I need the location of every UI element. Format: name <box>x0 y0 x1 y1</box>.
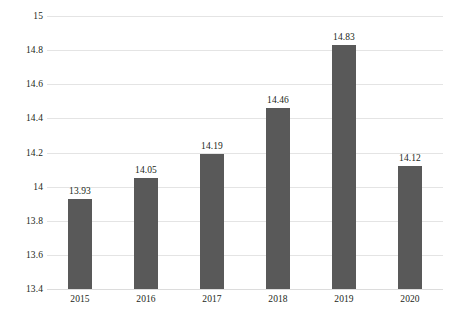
gridline <box>47 255 443 256</box>
x-axis-tick-label: 2019 <box>314 293 374 305</box>
bar[interactable] <box>134 178 158 289</box>
y-axis-tick-label: 13.8 <box>0 216 43 226</box>
bar[interactable] <box>332 45 356 289</box>
bar[interactable] <box>398 166 422 289</box>
bar-value-label: 13.93 <box>50 186 110 197</box>
bar[interactable] <box>68 199 92 289</box>
y-axis-tick-label: 14.8 <box>0 45 43 55</box>
gridline <box>47 118 443 119</box>
bar-chart: 13.413.613.81414.214.414.614.815 13.9314… <box>0 0 453 323</box>
gridline <box>47 221 443 222</box>
gridline <box>47 84 443 85</box>
gridline <box>47 16 443 17</box>
y-axis-tick-label: 14.2 <box>0 148 43 158</box>
y-axis-tick-label: 15 <box>0 11 43 21</box>
y-axis-tick-label: 13.4 <box>0 284 43 294</box>
x-axis-tick-label: 2020 <box>380 293 440 305</box>
x-axis-tick-label: 2015 <box>50 293 110 305</box>
y-axis-tick-label: 14 <box>0 182 43 192</box>
bar-value-label: 14.19 <box>182 141 242 152</box>
y-axis: 13.413.613.81414.214.414.614.815 <box>0 0 43 323</box>
x-axis-tick-label: 2018 <box>248 293 308 305</box>
bar[interactable] <box>266 108 290 289</box>
y-axis-tick-label: 13.6 <box>0 250 43 260</box>
bar-value-label: 14.05 <box>116 165 176 176</box>
y-axis-tick-label: 14.6 <box>0 79 43 89</box>
gridline <box>47 289 443 290</box>
bar-value-label: 14.83 <box>314 32 374 43</box>
bar-value-label: 14.12 <box>380 153 440 164</box>
gridline <box>47 50 443 51</box>
plot-area: 13.9314.0514.1914.4614.8314.12 <box>47 16 443 289</box>
bar-value-label: 14.46 <box>248 95 308 106</box>
x-axis-tick-label: 2016 <box>116 293 176 305</box>
x-axis-tick-label: 2017 <box>182 293 242 305</box>
x-axis: 201520162017201820192020 <box>47 293 443 313</box>
y-axis-tick-label: 14.4 <box>0 113 43 123</box>
bar[interactable] <box>200 154 224 289</box>
